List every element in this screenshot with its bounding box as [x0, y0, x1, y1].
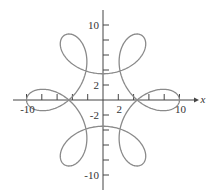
- y-tick-label: -2: [90, 109, 99, 121]
- x-axis-arrow-icon: [194, 98, 199, 103]
- y-tick-label: -10: [84, 169, 99, 181]
- y-tick-label: 2: [94, 79, 100, 91]
- x-tick-label: 2: [117, 103, 123, 115]
- x-tick-label: -10: [20, 103, 35, 115]
- axes: [13, 10, 199, 190]
- x-axis-label: x: [200, 93, 206, 105]
- y-tick-label: 10: [88, 19, 100, 31]
- x-tick-label: 10: [175, 103, 187, 115]
- polar-curve-plot: -10210102-2-10x: [0, 0, 212, 194]
